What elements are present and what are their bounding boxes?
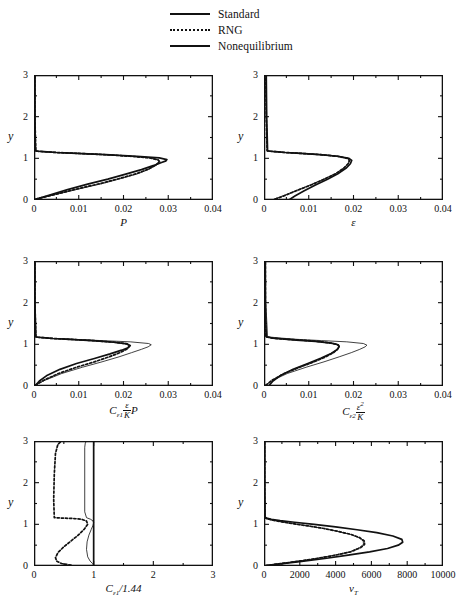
x-tick-label: 0.02: [99, 389, 149, 400]
legend-label-rng: RNG: [212, 24, 243, 36]
y-tick-label: 2: [8, 111, 28, 122]
legend-item-nonequilibrium: Nonequilibrium: [168, 38, 378, 54]
legend-line-nonequilibrium-icon: [168, 39, 212, 53]
plot-frame: [265, 442, 443, 566]
y-tick-label: 3: [8, 69, 28, 80]
legend-line-standard-icon: [168, 7, 212, 21]
x-tick-label: 3: [188, 569, 238, 580]
legend-label-nonequilibrium: Nonequilibrium: [212, 40, 293, 52]
panel-epsilon-xlabel: ε: [264, 216, 443, 228]
x-tick-label: 0.03: [143, 203, 193, 214]
x-tick-label: 2: [128, 569, 178, 580]
x-tick-label: 0.01: [54, 389, 104, 400]
plot-frame: [265, 76, 443, 200]
legend-line-rng-icon: [168, 23, 212, 37]
y-tick-label: 2: [8, 477, 28, 488]
x-tick-label: 1: [69, 569, 119, 580]
plot-frame: [35, 76, 213, 200]
y-tick-label: 1: [8, 518, 28, 529]
x-tick-label: 0.03: [143, 389, 193, 400]
panel-epsilon-ylabel: y: [238, 129, 243, 144]
panel-p-plot-area: [34, 75, 213, 200]
y-tick-label: 0: [238, 560, 258, 571]
y-tick-label: 1: [8, 338, 28, 349]
y-tick-label: 0: [8, 380, 28, 391]
x-tick-label: 0.04: [418, 203, 465, 214]
plot-frame: [35, 262, 213, 386]
panel-p-xlabel: P: [34, 216, 213, 228]
x-tick-label: 0.04: [188, 203, 238, 214]
x-tick-label: 0.01: [284, 203, 334, 214]
panel-ce1-eps-k-p-plot-area: [34, 261, 213, 386]
legend: Standard RNG Nonequilibrium: [168, 6, 378, 54]
figure-root: Standard RNG Nonequilibrium 00.010.020.0…: [0, 0, 465, 609]
panel-ce1-over-144-ylabel: y: [8, 495, 13, 510]
panel-nu-t-plot-area: [264, 441, 443, 566]
y-tick-label: 0: [8, 560, 28, 571]
x-tick-label: 10000: [418, 569, 465, 580]
panel-ce1-over-144-xlabel: Cε1/1.44: [34, 582, 213, 597]
legend-label-standard: Standard: [212, 8, 260, 20]
panel-ce1-eps-k-p-ylabel: y: [8, 315, 13, 330]
y-tick-label: 1: [238, 152, 258, 163]
y-tick-label: 1: [238, 518, 258, 529]
x-tick-label: 0.02: [329, 203, 379, 214]
legend-item-standard: Standard: [168, 6, 378, 22]
legend-item-rng: RNG: [168, 22, 378, 38]
plot-frame: [265, 262, 443, 386]
y-tick-label: 3: [8, 435, 28, 446]
x-tick-label: 0.01: [284, 389, 334, 400]
x-tick-label: 0.01: [54, 203, 104, 214]
y-tick-label: 1: [8, 152, 28, 163]
y-tick-label: 1: [238, 338, 258, 349]
x-tick-label: 0.04: [418, 389, 465, 400]
y-tick-label: 2: [238, 297, 258, 308]
panel-nu-t-ylabel: y: [238, 495, 243, 510]
panel-ce2-eps2-k-xlabel: Cε2ε2K: [264, 402, 443, 423]
y-tick-label: 3: [238, 435, 258, 446]
x-tick-label: 0.04: [188, 389, 238, 400]
y-tick-label: 3: [238, 255, 258, 266]
y-tick-label: 3: [238, 69, 258, 80]
y-tick-label: 0: [8, 194, 28, 205]
panel-ce1-over-144-plot-area: [34, 441, 213, 566]
y-tick-label: 2: [238, 111, 258, 122]
x-tick-label: 0.03: [373, 203, 423, 214]
panel-nu-t-xlabel: νT: [264, 582, 443, 597]
panel-p-ylabel: y: [8, 129, 13, 144]
panel-epsilon-plot-area: [264, 75, 443, 200]
x-tick-label: 0.02: [99, 203, 149, 214]
y-tick-label: 0: [238, 380, 258, 391]
x-tick-label: 0.02: [329, 389, 379, 400]
y-tick-label: 2: [8, 297, 28, 308]
panel-ce1-eps-k-p-xlabel: Cε1εKP: [34, 402, 213, 421]
panel-ce2-eps2-k-plot-area: [264, 261, 443, 386]
x-tick-label: 0.03: [373, 389, 423, 400]
y-tick-label: 3: [8, 255, 28, 266]
y-tick-label: 0: [238, 194, 258, 205]
y-tick-label: 2: [238, 477, 258, 488]
panel-ce2-eps2-k-ylabel: y: [238, 315, 243, 330]
plot-frame: [35, 442, 213, 566]
